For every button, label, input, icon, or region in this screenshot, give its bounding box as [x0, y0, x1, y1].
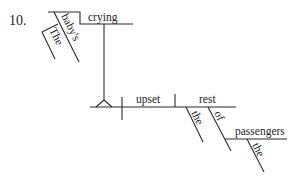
stilt-fork [96, 100, 112, 107]
word-upset: upset [136, 93, 161, 106]
sentence-diagram: 10. crying baby's The upset rest the of … [0, 0, 305, 182]
word-the-3: the [250, 141, 267, 159]
word-the-2: the [189, 109, 206, 127]
word-the-1: The [47, 25, 66, 46]
word-passengers: passengers [235, 125, 285, 138]
word-rest: rest [199, 93, 216, 105]
exercise-number: 10. [9, 13, 27, 28]
word-crying: crying [88, 11, 118, 24]
